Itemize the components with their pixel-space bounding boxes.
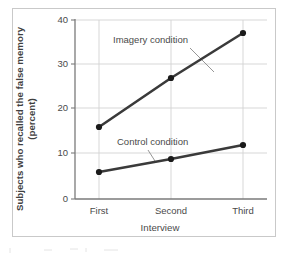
- y-tick-label-30: 30: [42, 58, 68, 69]
- y-tick-label-40: 40: [42, 14, 68, 25]
- series-annotation-control: Control condition: [117, 136, 188, 147]
- x-tick-label-second: Second: [141, 205, 201, 216]
- y-tick-label-20: 20: [42, 102, 68, 113]
- data-point-control-first: [96, 169, 102, 175]
- x-axis-label: Interview: [60, 222, 260, 233]
- scan-artifact: [8, 248, 138, 253]
- data-point-imagery-third: [240, 30, 246, 36]
- figure-container: 40 30 20 10 0 First Second Third Intervi…: [0, 0, 289, 257]
- data-point-imagery-first: [96, 124, 102, 130]
- data-point-control-second: [168, 156, 174, 162]
- y-axis-label: Subjects who recalled the false memory (…: [14, 24, 44, 214]
- y-tick-label-10: 10: [42, 147, 68, 158]
- control-leader-line: [148, 150, 155, 161]
- series-annotation-imagery: Imagery condition: [113, 34, 188, 45]
- x-tick-label-first: First: [69, 205, 129, 216]
- data-point-imagery-second: [168, 75, 174, 81]
- data-point-control-third: [240, 142, 246, 148]
- y-tick-label-0: 0: [42, 193, 68, 204]
- y-axis-label-line-2: (percent): [26, 24, 38, 214]
- y-axis-label-line-1: Subjects who recalled the false memory: [14, 24, 26, 214]
- x-tick-label-third: Third: [213, 205, 273, 216]
